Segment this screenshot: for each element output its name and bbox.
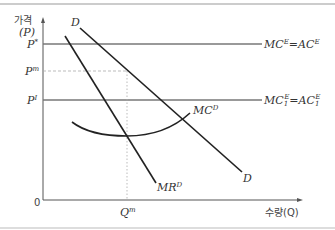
q-m-label: Qm [120,206,136,219]
svg-text:MC1E=AC1E: MC1E=AC1E [263,93,320,108]
origin-label: 0 [34,197,40,208]
svg-text:PI: PI [26,94,37,107]
svg-text:Pm: Pm [24,65,39,78]
svg-text:P*: P* [26,38,38,51]
mc-e-label: MCE=ACE [263,38,320,51]
mc-label: MCD [192,104,219,117]
svg-text:MCD: MCD [192,104,219,117]
p-star-label: P* [26,38,38,51]
marginal-revenue-curve [65,36,156,183]
svg-text:MRD: MRD [156,181,183,194]
y-axis-arrow-icon [41,17,45,23]
p-m-label: Pm [24,65,39,78]
y-axis-label: 가격 [14,14,32,26]
mc1-e-label: MC1E=AC1E [263,93,320,108]
x-axis-label: 수량(Q) [265,207,299,218]
p-i-label: PI [26,94,37,107]
monopoly-pricing-diagram: 가격 (P) P* Pm PI 0 Qm 수량(Q) D D MRD MCD M… [0,0,335,230]
svg-text:MCE=ACE: MCE=ACE [263,38,320,51]
svg-text:Qm: Qm [120,206,136,219]
demand-label-bottom: D [242,172,252,185]
demand-label-top: D [70,16,80,29]
mr-label: MRD [156,181,183,194]
x-axis-arrow-icon [297,198,303,202]
marginal-cost-curve [72,113,190,136]
